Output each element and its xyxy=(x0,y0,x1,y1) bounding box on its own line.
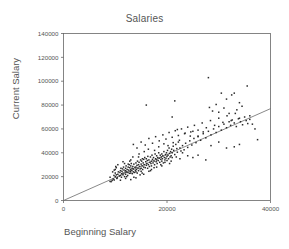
data-point xyxy=(139,174,141,176)
data-point xyxy=(185,142,187,144)
data-point xyxy=(239,102,241,104)
data-point xyxy=(152,142,154,144)
data-point xyxy=(140,163,142,165)
data-point xyxy=(170,155,172,157)
data-point xyxy=(168,132,170,134)
data-point xyxy=(257,139,259,141)
data-point xyxy=(122,161,124,163)
data-point xyxy=(234,92,236,94)
data-point xyxy=(164,162,166,164)
data-point xyxy=(244,116,246,118)
data-point xyxy=(197,154,199,156)
data-point xyxy=(136,172,138,174)
data-point xyxy=(115,166,117,168)
data-point xyxy=(202,133,204,135)
data-point xyxy=(174,154,176,156)
data-point xyxy=(129,160,131,162)
data-point xyxy=(148,159,150,161)
data-point xyxy=(165,138,167,140)
data-point xyxy=(215,132,217,134)
data-point xyxy=(145,167,147,169)
data-point xyxy=(153,157,155,159)
data-point xyxy=(187,147,189,149)
data-point xyxy=(171,152,173,154)
data-point xyxy=(122,174,124,176)
data-point xyxy=(148,148,150,150)
data-point xyxy=(210,134,212,136)
data-point xyxy=(147,168,149,170)
data-point xyxy=(157,157,159,159)
data-point xyxy=(234,146,236,148)
y-tick-label: 100000 xyxy=(38,77,59,84)
data-point xyxy=(148,138,150,140)
data-point xyxy=(138,156,140,158)
data-point xyxy=(151,165,153,167)
data-point xyxy=(215,104,217,106)
data-point xyxy=(205,159,207,161)
data-point xyxy=(254,128,256,130)
data-point xyxy=(140,168,142,170)
data-point xyxy=(187,126,189,128)
data-point xyxy=(230,120,232,122)
data-point xyxy=(120,168,122,170)
data-point xyxy=(167,154,169,156)
data-point xyxy=(124,163,126,165)
data-point xyxy=(176,156,178,158)
data-point xyxy=(156,159,158,161)
data-point xyxy=(158,157,160,159)
data-point xyxy=(221,129,223,131)
data-point xyxy=(130,179,132,181)
data-point xyxy=(133,163,135,165)
data-point xyxy=(178,135,180,137)
data-point xyxy=(154,150,156,152)
data-point xyxy=(121,171,123,173)
data-point xyxy=(133,176,135,178)
data-point xyxy=(206,127,208,128)
data-point xyxy=(208,131,210,133)
plot-area: 0200004000060000800001000001200001400000… xyxy=(0,0,289,249)
data-point xyxy=(191,144,193,146)
data-point xyxy=(140,141,142,143)
data-point xyxy=(228,113,230,115)
data-point xyxy=(223,107,225,109)
data-point xyxy=(120,170,122,172)
data-point xyxy=(136,165,138,167)
data-point xyxy=(197,136,199,138)
data-point xyxy=(123,169,125,171)
data-point xyxy=(126,171,128,173)
data-point xyxy=(112,171,114,173)
data-point xyxy=(179,147,181,149)
data-point xyxy=(172,145,174,147)
data-point xyxy=(127,163,129,165)
data-point xyxy=(239,144,241,146)
data-point xyxy=(118,171,120,173)
data-point xyxy=(162,134,164,136)
data-point xyxy=(161,156,163,158)
data-point xyxy=(129,167,131,169)
data-point xyxy=(115,176,117,178)
data-point xyxy=(122,172,124,174)
data-point xyxy=(127,172,128,174)
data-point xyxy=(221,92,223,94)
data-point xyxy=(187,155,189,157)
data-point xyxy=(144,157,146,159)
data-point xyxy=(218,126,220,128)
data-point xyxy=(218,141,220,143)
data-point xyxy=(172,142,174,144)
data-point xyxy=(239,117,241,119)
data-point xyxy=(200,140,202,142)
data-point xyxy=(138,170,140,172)
data-point xyxy=(146,163,148,165)
data-point xyxy=(126,169,128,171)
data-point xyxy=(138,153,140,155)
data-point xyxy=(212,110,214,112)
data-point xyxy=(171,137,173,139)
data-point xyxy=(174,100,176,102)
data-point xyxy=(168,147,170,149)
x-tick-label: 20000 xyxy=(158,205,176,212)
data-point xyxy=(146,165,148,167)
data-point xyxy=(138,164,140,166)
data-point xyxy=(156,163,158,165)
data-point xyxy=(142,169,144,171)
data-point xyxy=(128,169,130,171)
